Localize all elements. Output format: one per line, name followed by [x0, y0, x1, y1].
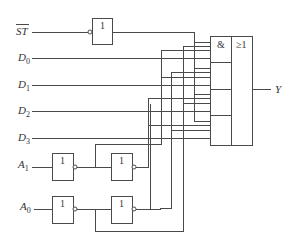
svg-text:1: 1	[119, 198, 124, 209]
svg-text:D3: D3	[17, 131, 30, 146]
or-symbol: ≥1	[236, 39, 247, 50]
label-d2: D2	[17, 104, 30, 119]
inverter-bubble-icon	[132, 207, 136, 211]
mux-circuit-diagram: ST D0 D1 D2 D3 A1 A0 1 1 1 1	[0, 0, 297, 248]
svg-text:ST: ST	[16, 25, 29, 37]
svg-text:D0: D0	[17, 51, 30, 66]
and-symbol: &	[217, 39, 225, 50]
inverter-bubble-icon	[73, 165, 77, 169]
svg-text:1: 1	[100, 20, 105, 31]
label-a1: A1	[17, 158, 29, 173]
label-y: Y	[275, 83, 283, 95]
inverter-bubble-icon	[132, 165, 136, 169]
label-d0: D0	[17, 51, 30, 66]
svg-text:A0: A0	[19, 200, 31, 215]
svg-text:1: 1	[119, 155, 124, 166]
svg-text:1: 1	[60, 198, 65, 209]
label-a0: A0	[19, 200, 31, 215]
inverter-bubble-icon	[73, 207, 77, 211]
svg-text:A1: A1	[17, 158, 29, 173]
svg-text:D1: D1	[17, 78, 30, 93]
and-or-gate: & ≥1	[210, 36, 252, 145]
label-d3: D3	[17, 131, 30, 146]
inverter-bubble-icon	[88, 30, 92, 34]
svg-text:1: 1	[60, 155, 65, 166]
label-st: ST	[16, 24, 29, 37]
label-d1: D1	[17, 78, 30, 93]
svg-text:D2: D2	[17, 104, 30, 119]
